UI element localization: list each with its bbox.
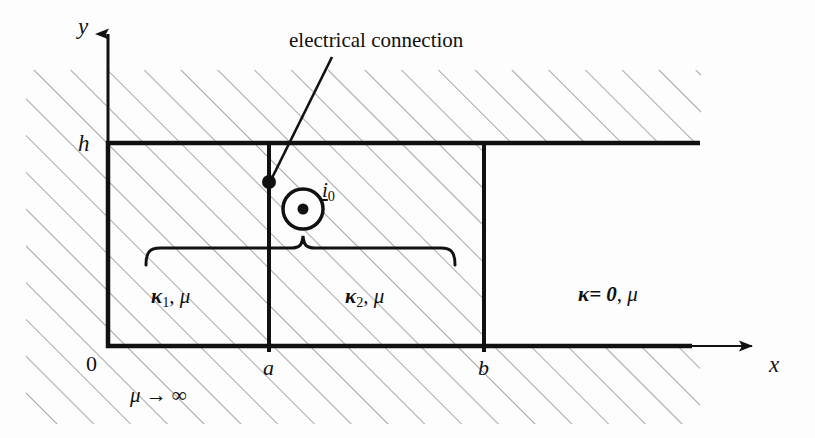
region-2-mu: μ bbox=[374, 284, 385, 308]
region-3-mu: μ bbox=[627, 282, 638, 306]
region-2-kappa: κ bbox=[345, 284, 356, 308]
region-2-kappa-subscript: 2 bbox=[356, 294, 363, 310]
y-axis-label: y bbox=[78, 14, 88, 40]
core-permeability-label: μ → ∞ bbox=[130, 383, 187, 408]
hatching-left bbox=[24, 143, 108, 346]
diagram-canvas bbox=[0, 0, 815, 438]
current-symbol-subscript: 0 bbox=[328, 188, 335, 204]
height-label: h bbox=[78, 131, 90, 157]
position-a-label: a bbox=[263, 355, 274, 381]
position-b-label: b bbox=[478, 355, 489, 381]
hatching-upper bbox=[24, 70, 815, 143]
physics-diagram: y x h 0 a b κ1, μ κ2, μ κ= 0, μ μ → ∞ i0… bbox=[0, 0, 815, 438]
hatching-slot bbox=[108, 143, 484, 346]
region-2-label: κ2, μ bbox=[345, 284, 384, 311]
bottom-mask bbox=[0, 424, 815, 438]
origin-label: 0 bbox=[86, 351, 97, 377]
electrical-connection-dot bbox=[262, 175, 276, 189]
right-mask bbox=[760, 70, 815, 346]
region-1-kappa: κ bbox=[151, 284, 162, 308]
region-1-kappa-subscript: 1 bbox=[162, 294, 169, 310]
region-3-label: κ= 0, μ bbox=[578, 282, 638, 307]
electrical-connection-label: electrical connection bbox=[289, 28, 463, 53]
current-out-of-page-dot bbox=[298, 204, 309, 215]
x-label-mask bbox=[700, 352, 762, 400]
current-source-label: i0 bbox=[322, 178, 335, 205]
region-1-mu: μ bbox=[180, 284, 191, 308]
region-3-kappa: κ= 0 bbox=[578, 282, 617, 306]
region-3-fill bbox=[485, 144, 700, 345]
region-1-label: κ1, μ bbox=[151, 284, 190, 311]
x-axis-label: x bbox=[769, 352, 779, 378]
